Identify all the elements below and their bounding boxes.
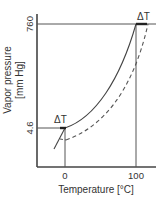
y-axis-label: Vapor pressure [2,46,13,114]
x-tick-100: 100 [128,170,144,181]
pure-water-curve [65,24,136,128]
y-tick-760: 760 [24,16,35,32]
ice-sublimation-line [54,128,65,149]
y-axis-unit: [mm Hg] [14,61,25,99]
x-tick-0: 0 [62,170,67,181]
phase-diagram-chart: ΔT ΔT 760 4.6 Vapor pressure [mm Hg] 0 1… [0,0,166,202]
y-tick-4-6: 4.6 [24,121,35,134]
delta-t-label-bottom: ΔT [54,114,67,125]
x-axis-label: Temperature [°C] [58,184,134,195]
delta-t-label-top: ΔT [137,11,150,22]
